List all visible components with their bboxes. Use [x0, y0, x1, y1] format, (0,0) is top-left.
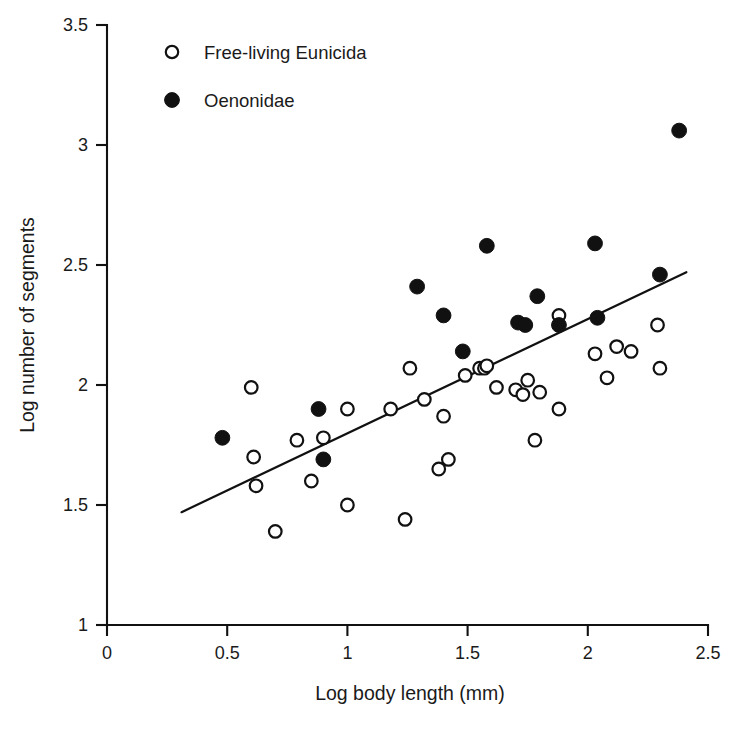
data-point-open	[553, 403, 566, 416]
data-point-open	[490, 381, 503, 394]
y-tick-label: 2.5	[63, 255, 88, 275]
x-axis-title: Log body length (mm)	[315, 682, 505, 704]
data-point-filled	[215, 430, 230, 445]
y-tick-label: 3.5	[63, 15, 88, 35]
x-axis-tick-labels: 00.511.522.5	[102, 643, 721, 663]
x-tick-label: 1	[342, 643, 352, 663]
x-tick-label: 0	[102, 643, 112, 663]
figure-caption	[0, 721, 736, 730]
data-point-filled	[410, 279, 425, 294]
data-point-open	[250, 480, 263, 493]
x-tick-label: 1.5	[455, 643, 480, 663]
legend-label-free-living-eunicida: Free-living Eunicida	[204, 42, 367, 63]
data-point-filled	[588, 236, 603, 251]
y-tick-label: 1	[78, 615, 88, 635]
x-tick-label: 2.5	[695, 643, 720, 663]
data-point-open	[418, 393, 431, 406]
data-point-filled	[479, 238, 494, 253]
data-point-open	[610, 340, 623, 353]
data-point-open	[399, 513, 412, 526]
data-point-open	[517, 388, 530, 401]
data-point-filled	[552, 318, 567, 333]
data-point-open	[404, 362, 417, 375]
data-point-filled	[653, 267, 668, 282]
y-tick-label: 1.5	[63, 495, 88, 515]
data-point-open	[533, 386, 546, 399]
data-point-open	[601, 372, 614, 385]
data-point-open	[305, 475, 318, 488]
y-axis-title: Log number of segments	[16, 217, 38, 433]
chart-canvas: 11.522.533.5 00.511.522.5 Log number of …	[0, 0, 736, 730]
legend-marker-filled-circle	[165, 93, 180, 108]
data-point-open	[341, 403, 354, 416]
x-tick-label: 0.5	[215, 643, 240, 663]
data-point-filled	[436, 308, 451, 323]
chart-legend: Free-living Eunicida Oenonidae	[165, 42, 368, 111]
legend-label-oenonidae: Oenonidae	[204, 90, 295, 111]
data-point-open	[589, 348, 602, 361]
data-point-open	[625, 345, 638, 358]
data-point-filled	[455, 344, 470, 359]
data-point-filled	[530, 289, 545, 304]
data-point-open	[245, 381, 258, 394]
data-point-open	[529, 434, 542, 447]
x-axis-ticks	[107, 625, 708, 636]
data-point-open	[442, 453, 455, 466]
data-point-open	[291, 434, 304, 447]
data-point-open	[651, 319, 664, 332]
data-point-filled	[672, 123, 687, 138]
x-tick-label: 2	[583, 643, 593, 663]
y-tick-label: 2	[78, 375, 88, 395]
data-point-open	[341, 499, 354, 512]
y-tick-label: 3	[78, 135, 88, 155]
data-point-open	[654, 362, 667, 375]
data-point-open	[384, 403, 397, 416]
data-point-filled	[311, 402, 326, 417]
data-point-open	[269, 525, 282, 538]
data-point-open	[247, 451, 260, 464]
data-point-open	[521, 374, 534, 387]
data-point-open	[317, 432, 330, 445]
regression-line	[182, 272, 687, 512]
data-point-open	[459, 369, 472, 382]
legend-marker-open-circle	[166, 46, 178, 58]
data-point-open	[481, 360, 494, 373]
data-point-filled	[518, 318, 533, 333]
data-point-filled	[316, 452, 331, 467]
data-point-filled	[590, 310, 605, 325]
y-axis-ticks	[96, 25, 107, 625]
y-axis-tick-labels: 11.522.533.5	[63, 15, 88, 635]
series-free-living-eunicida	[245, 309, 666, 538]
scatter-plot-figure: 11.522.533.5 00.511.522.5 Log number of …	[0, 0, 736, 730]
data-point-open	[437, 410, 450, 423]
